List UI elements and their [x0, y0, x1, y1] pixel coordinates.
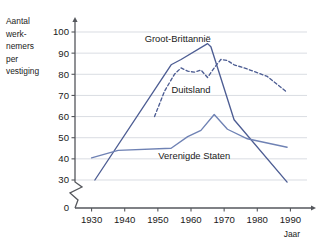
- x-axis-arrowhead: [311, 205, 316, 210]
- series-line-groot-brittanni: [95, 44, 287, 182]
- y-axis-arrowhead: [72, 17, 77, 22]
- x-tick-label-1980: 1980: [247, 214, 268, 225]
- x-tick-label-1940: 1940: [114, 214, 135, 225]
- employees-per-establishment-line-chart: 304050607080901000 193019401950196019701…: [0, 0, 318, 250]
- y-tick-label-30: 30: [58, 174, 69, 185]
- x-tick-label-1930: 1930: [81, 214, 102, 225]
- y-axis-title-line-5: vestiging: [6, 66, 39, 76]
- y-tick-label-0: 0: [64, 202, 69, 213]
- x-tick-label-1960: 1960: [180, 214, 201, 225]
- chart-container: 304050607080901000 193019401950196019701…: [0, 0, 318, 250]
- data-series-group: [92, 44, 288, 182]
- series-annotation-duitsland: Duitsland: [171, 84, 210, 95]
- y-axis-title-line-2: werk-: [5, 29, 27, 39]
- x-tick-label-1970: 1970: [213, 214, 234, 225]
- y-axis-title: Aantalwerk-nemerspervestiging: [5, 16, 39, 76]
- y-axis-title-line-4: per: [6, 54, 18, 64]
- axes: [70, 17, 316, 211]
- series-annotations: Groot-BrittanniëDuitslandVerenigde State…: [145, 33, 231, 161]
- series-annotation-groot-brittanni: Groot-Brittannië: [145, 33, 211, 44]
- x-tick-label-1950: 1950: [147, 214, 168, 225]
- y-tick-label-40: 40: [58, 153, 69, 164]
- x-tick-label-1990: 1990: [280, 214, 301, 225]
- y-axis-title-line-1: Aantal: [6, 16, 30, 26]
- y-tick-label-100: 100: [53, 26, 69, 37]
- series-annotation-verenigde-staten: Verenigde Staten: [158, 150, 230, 161]
- y-tick-label-50: 50: [58, 132, 69, 143]
- y-tick-label-60: 60: [58, 111, 69, 122]
- y-tick-label-90: 90: [58, 48, 69, 59]
- x-axis-tick-labels: 1930194019501960197019801990: [81, 214, 301, 225]
- y-tick-label-80: 80: [58, 69, 69, 80]
- x-axis-title: Jaar: [284, 229, 301, 239]
- y-axis-tick-labels: 304050607080901000: [53, 26, 69, 213]
- y-tick-label-70: 70: [58, 90, 69, 101]
- y-axis-title-line-3: nemers: [6, 41, 34, 51]
